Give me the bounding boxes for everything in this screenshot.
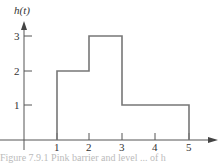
- step-function-line: [57, 36, 189, 140]
- x-axis-arrow-icon: [208, 137, 218, 143]
- y-axis-arrow-icon: [21, 21, 27, 30]
- y-axis-label: h(t): [14, 4, 30, 17]
- step-chart: 1 2 3 1 2 3 4 5 h(t): [0, 0, 224, 163]
- y-tick-label-3: 3: [14, 30, 20, 42]
- y-tick-label-2: 2: [14, 65, 20, 77]
- figure-caption: Figure 7.9.1 Pink barrier and level ... …: [0, 152, 224, 163]
- y-tick-label-1: 1: [14, 99, 20, 111]
